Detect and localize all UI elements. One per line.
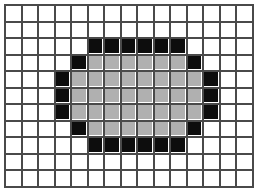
empty-pixel-cell [204, 171, 221, 188]
empty-pixel-cell [237, 89, 254, 106]
empty-pixel-cell [204, 6, 221, 23]
empty-pixel-cell [237, 155, 254, 172]
empty-pixel-cell [6, 72, 23, 89]
outline-pixel-cell [204, 105, 221, 122]
empty-pixel-cell [89, 171, 106, 188]
interior-pixel-cell [155, 122, 172, 139]
outline-pixel-cell [56, 89, 73, 106]
empty-pixel-cell [155, 155, 172, 172]
pixel-grid [4, 4, 254, 188]
empty-pixel-cell [23, 72, 40, 89]
empty-pixel-cell [122, 171, 139, 188]
interior-pixel-cell [171, 72, 188, 89]
empty-pixel-cell [221, 72, 238, 89]
empty-pixel-cell [237, 56, 254, 73]
empty-pixel-cell [23, 39, 40, 56]
interior-pixel-cell [138, 56, 155, 73]
empty-pixel-cell [6, 138, 23, 155]
interior-pixel-cell [122, 56, 139, 73]
empty-pixel-cell [237, 105, 254, 122]
interior-pixel-cell [72, 89, 89, 106]
empty-pixel-cell [221, 56, 238, 73]
empty-pixel-cell [89, 6, 106, 23]
empty-pixel-cell [56, 155, 73, 172]
empty-pixel-cell [237, 6, 254, 23]
empty-pixel-cell [138, 155, 155, 172]
empty-pixel-cell [138, 171, 155, 188]
interior-pixel-cell [122, 89, 139, 106]
interior-pixel-cell [89, 72, 106, 89]
empty-pixel-cell [171, 23, 188, 40]
empty-pixel-cell [56, 23, 73, 40]
empty-pixel-cell [6, 39, 23, 56]
empty-pixel-cell [204, 56, 221, 73]
interior-pixel-cell [138, 105, 155, 122]
empty-pixel-cell [237, 72, 254, 89]
empty-pixel-cell [204, 138, 221, 155]
empty-pixel-cell [23, 138, 40, 155]
empty-pixel-cell [23, 122, 40, 139]
empty-pixel-cell [39, 72, 56, 89]
empty-pixel-cell [138, 23, 155, 40]
empty-pixel-cell [237, 23, 254, 40]
empty-pixel-cell [72, 6, 89, 23]
empty-pixel-cell [138, 6, 155, 23]
empty-pixel-cell [56, 39, 73, 56]
empty-pixel-cell [23, 171, 40, 188]
empty-pixel-cell [204, 23, 221, 40]
pixel-grid-figure [0, 0, 260, 190]
empty-pixel-cell [188, 6, 205, 23]
empty-pixel-cell [89, 23, 106, 40]
outline-pixel-cell [56, 105, 73, 122]
empty-pixel-cell [155, 171, 172, 188]
empty-pixel-cell [171, 171, 188, 188]
interior-pixel-cell [122, 105, 139, 122]
outline-pixel-cell [72, 56, 89, 73]
empty-pixel-cell [72, 171, 89, 188]
empty-pixel-cell [39, 155, 56, 172]
empty-pixel-cell [188, 138, 205, 155]
empty-pixel-cell [6, 155, 23, 172]
empty-pixel-cell [6, 105, 23, 122]
outline-pixel-cell [204, 89, 221, 106]
empty-pixel-cell [39, 138, 56, 155]
outline-pixel-cell [122, 39, 139, 56]
interior-pixel-cell [155, 56, 172, 73]
empty-pixel-cell [105, 23, 122, 40]
empty-pixel-cell [39, 122, 56, 139]
empty-pixel-cell [72, 23, 89, 40]
empty-pixel-cell [171, 6, 188, 23]
empty-pixel-cell [221, 6, 238, 23]
outline-pixel-cell [89, 138, 106, 155]
outline-pixel-cell [188, 56, 205, 73]
interior-pixel-cell [72, 72, 89, 89]
outline-pixel-cell [204, 72, 221, 89]
empty-pixel-cell [105, 155, 122, 172]
empty-pixel-cell [237, 138, 254, 155]
interior-pixel-cell [155, 105, 172, 122]
outline-pixel-cell [171, 138, 188, 155]
empty-pixel-cell [237, 122, 254, 139]
outline-pixel-cell [122, 138, 139, 155]
empty-pixel-cell [23, 6, 40, 23]
interior-pixel-cell [122, 72, 139, 89]
outline-pixel-cell [105, 39, 122, 56]
empty-pixel-cell [6, 122, 23, 139]
empty-pixel-cell [155, 23, 172, 40]
empty-pixel-cell [221, 155, 238, 172]
interior-pixel-cell [188, 89, 205, 106]
empty-pixel-cell [204, 155, 221, 172]
empty-pixel-cell [23, 89, 40, 106]
empty-pixel-cell [56, 6, 73, 23]
empty-pixel-cell [221, 171, 238, 188]
empty-pixel-cell [6, 171, 23, 188]
empty-pixel-cell [23, 23, 40, 40]
empty-pixel-cell [39, 6, 56, 23]
interior-pixel-cell [171, 89, 188, 106]
outline-pixel-cell [155, 138, 172, 155]
interior-pixel-cell [105, 105, 122, 122]
interior-pixel-cell [89, 89, 106, 106]
outline-pixel-cell [105, 138, 122, 155]
empty-pixel-cell [56, 171, 73, 188]
empty-pixel-cell [204, 39, 221, 56]
